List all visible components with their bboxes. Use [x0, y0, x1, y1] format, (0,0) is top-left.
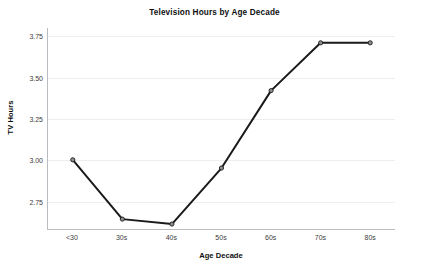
x-tick-label: <30	[49, 234, 95, 241]
x-tick-label: 40s	[148, 234, 194, 241]
data-point-marker	[319, 41, 323, 45]
plot-area	[47, 28, 395, 230]
data-point-marker	[120, 217, 124, 221]
y-tick-label: 3.50	[0, 74, 43, 81]
x-tick-label: 70s	[297, 234, 343, 241]
chart-figure: Television Hours by Age Decade TV Hours …	[0, 0, 429, 271]
x-tick-label: 50s	[198, 234, 244, 241]
y-axis-tick-labels: 2.753.003.253.503.75	[0, 28, 43, 230]
data-point-marker	[219, 166, 223, 170]
x-tick-label: 30s	[99, 234, 145, 241]
line-series	[48, 28, 395, 229]
x-tick-label: 60s	[248, 234, 294, 241]
data-point-marker	[269, 89, 273, 93]
y-tick-label: 3.75	[0, 33, 43, 40]
data-point-marker	[368, 41, 372, 45]
chart-title: Television Hours by Age Decade	[0, 8, 429, 17]
x-axis-tick-labels: <3030s40s50s60s70s80s	[47, 234, 395, 248]
y-tick-label: 2.75	[0, 198, 43, 205]
x-tick-label: 80s	[347, 234, 393, 241]
y-tick-label: 3.25	[0, 116, 43, 123]
y-tick-label: 3.00	[0, 157, 43, 164]
series-line	[73, 43, 370, 224]
data-point-marker	[170, 222, 174, 226]
data-point-marker	[71, 158, 75, 162]
x-axis-title: Age Decade	[47, 251, 395, 260]
